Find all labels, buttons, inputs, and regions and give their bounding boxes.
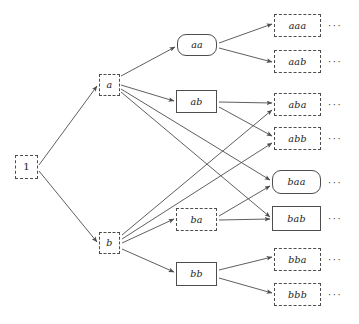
continuation-ellipsis-bbb: ··· [328, 290, 342, 300]
node-a[interactable]: a [99, 74, 120, 96]
edge-bb-to-bbb [219, 278, 272, 293]
edge-aa-to-aaa [219, 24, 272, 43]
continuation-ellipsis-abb: ··· [328, 134, 342, 144]
node-label: aba [288, 100, 306, 110]
node-label: ba [190, 215, 202, 225]
continuation-ellipsis-aaa: ··· [328, 21, 342, 31]
node-aab[interactable]: aab [274, 50, 321, 73]
edge-bb-to-bba [219, 257, 272, 270]
edge-ab-to-aba [219, 102, 272, 103]
node-aa[interactable]: aa [177, 34, 217, 56]
node-bbb[interactable]: bbb [274, 283, 321, 306]
node-abb[interactable]: abb [274, 127, 321, 150]
node-baa[interactable]: baa [272, 170, 321, 194]
node-label: aa [191, 40, 203, 50]
continuation-ellipsis-baa: ··· [328, 178, 342, 188]
node-label: aaa [289, 21, 307, 31]
node-label: bbb [288, 290, 307, 300]
node-label: a [107, 80, 113, 90]
edge-aa-to-aab [219, 48, 272, 62]
node-label: aab [288, 57, 306, 67]
edge-b-to-bb [122, 249, 174, 272]
diagram-canvas: 1abaaabbabbaaaaababaabbbaababbbabbb ····… [0, 0, 359, 324]
edge-root-to-a [39, 86, 97, 165]
node-label: baa [287, 177, 305, 187]
node-label: 1 [23, 162, 30, 172]
continuation-ellipsis-aba: ··· [328, 100, 342, 110]
edge-ba-to-bab [219, 219, 270, 220]
node-ba[interactable]: ba [176, 208, 217, 231]
node-b[interactable]: b [99, 232, 120, 254]
node-label: ab [190, 97, 202, 107]
edges [39, 24, 272, 293]
node-root[interactable]: 1 [15, 155, 38, 179]
node-aaa[interactable]: aaa [274, 14, 321, 37]
continuation-ellipsis-bab: ··· [328, 214, 342, 224]
node-aba[interactable]: aba [274, 93, 321, 116]
node-label: bba [288, 255, 306, 265]
edge-ba-to-baa [219, 186, 270, 216]
continuation-ellipsis-bba: ··· [328, 255, 342, 265]
edge-root-to-b [39, 171, 97, 242]
node-label: b [106, 238, 112, 248]
node-ab[interactable]: ab [176, 90, 217, 113]
node-label: bb [190, 269, 203, 279]
node-bab[interactable]: bab [272, 206, 321, 231]
node-label: abb [288, 134, 306, 144]
node-bba[interactable]: bba [274, 248, 321, 271]
continuation-ellipsis-aab: ··· [328, 57, 342, 67]
edge-a-to-aa [121, 47, 175, 76]
node-bb[interactable]: bb [176, 262, 217, 286]
node-label: bab [287, 214, 305, 224]
